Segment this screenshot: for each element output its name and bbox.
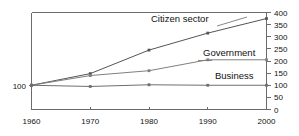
y-tick-label-0: 0	[274, 106, 279, 115]
series-label-government: Government	[203, 47, 256, 58]
left-baseline-label: 100	[13, 82, 27, 91]
y-tick-label-50: 50	[274, 93, 283, 102]
data-point-marker	[148, 49, 151, 52]
y-tick-label-350: 350	[274, 21, 288, 30]
data-point-marker	[265, 84, 268, 87]
y-tick-label-250: 250	[274, 45, 288, 54]
x-tick-label-1960: 1960	[23, 117, 41, 126]
data-point-marker	[30, 84, 33, 87]
data-point-marker	[206, 32, 209, 35]
series-business	[30, 83, 268, 88]
x-tick-label-1980: 1980	[140, 117, 158, 126]
data-point-marker	[265, 17, 268, 20]
series-label-citizen-sector: Citizen sector	[151, 13, 209, 24]
data-point-marker	[89, 85, 92, 88]
series-label-business: Business	[215, 70, 254, 81]
y-tick-label-300: 300	[274, 33, 288, 42]
y-tick-label-200: 200	[274, 57, 288, 66]
y-tick-label-100: 100	[274, 81, 288, 90]
data-point-marker	[148, 83, 151, 86]
data-point-marker	[89, 74, 92, 77]
x-tick-label-1990: 1990	[199, 117, 217, 126]
line-chart: 400 350 300 250 200 150 100 50 0 1960 19…	[0, 0, 299, 136]
chart-container: 400 350 300 250 200 150 100 50 0 1960 19…	[0, 0, 299, 136]
x-tick-label-2000: 2000	[258, 117, 276, 126]
data-point-marker	[265, 58, 268, 61]
y-tick-label-150: 150	[274, 69, 288, 78]
data-point-marker	[148, 69, 151, 72]
x-tick-label-1970: 1970	[81, 117, 99, 126]
data-point-marker	[206, 84, 209, 87]
y-tick-label-400: 400	[274, 9, 288, 18]
